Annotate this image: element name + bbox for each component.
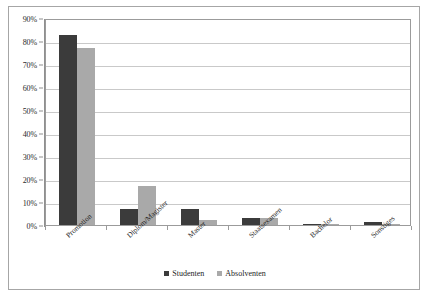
- y-tick-mark: [39, 203, 43, 204]
- y-tick-mark: [39, 42, 43, 43]
- plot-area: [45, 19, 411, 226]
- x-tick-mark: [106, 226, 107, 230]
- x-tick-mark: [45, 226, 46, 230]
- y-axis: 0%10%20%30%40%50%60%70%80%90%: [9, 19, 43, 226]
- bar-group: [229, 20, 290, 225]
- y-tick-label: 10%: [23, 199, 37, 208]
- y-tick-mark: [39, 226, 43, 227]
- chart-legend: StudentenAbsolventen: [9, 269, 421, 278]
- y-tick-mark: [39, 134, 43, 135]
- bar-group: [351, 20, 412, 225]
- x-tick-mark: [228, 226, 229, 230]
- y-tick-label: 70%: [23, 61, 37, 70]
- y-tick-label: 20%: [23, 176, 37, 185]
- chart-frame: 0%10%20%30%40%50%60%70%80%90% PromotionD…: [8, 6, 420, 290]
- y-tick-label: 80%: [23, 38, 37, 47]
- bar-group: [290, 20, 351, 225]
- x-tick-mark: [289, 226, 290, 230]
- y-tick-mark: [39, 65, 43, 66]
- y-tick-mark: [39, 180, 43, 181]
- y-tick-label: 90%: [23, 15, 37, 24]
- legend-label: Absolventen: [225, 269, 265, 278]
- legend-entry[interactable]: Studenten: [164, 269, 204, 278]
- y-tick-label: 40%: [23, 130, 37, 139]
- legend-swatch-icon: [217, 271, 222, 276]
- legend-swatch-icon: [164, 271, 169, 276]
- y-tick-mark: [39, 111, 43, 112]
- y-tick-mark: [39, 19, 43, 20]
- bars-layer: [46, 20, 410, 225]
- bar-group: [46, 20, 107, 225]
- bar-group: [168, 20, 229, 225]
- y-tick-mark: [39, 157, 43, 158]
- bar-absolventen[interactable]: [77, 48, 95, 225]
- x-tick-mark: [167, 226, 168, 230]
- x-tick-mark: [350, 226, 351, 230]
- bar-group: [107, 20, 168, 225]
- legend-label: Studenten: [172, 269, 204, 278]
- y-tick-label: 60%: [23, 84, 37, 93]
- y-tick-label: 0%: [27, 222, 37, 231]
- legend-entry[interactable]: Absolventen: [217, 269, 265, 278]
- y-tick-label: 50%: [23, 107, 37, 116]
- x-tick-mark: [411, 226, 412, 230]
- y-tick-mark: [39, 88, 43, 89]
- y-tick-label: 30%: [23, 153, 37, 162]
- bar-studenten[interactable]: [59, 35, 77, 225]
